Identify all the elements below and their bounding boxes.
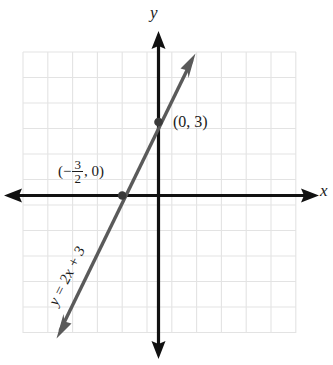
x-intercept-label: (− 3 2 , 0) [58, 158, 104, 186]
point-x-intercept [118, 191, 127, 200]
fraction-denominator: 2 [72, 172, 83, 185]
fraction-numerator: 3 [72, 158, 83, 171]
point-y-intercept [154, 118, 163, 127]
x-intercept-label-suffix: , 0) [84, 164, 104, 179]
graph-figure: y x (0, 3) (− 3 2 , 0) y = 2x + 3 [0, 0, 333, 365]
x-intercept-label-prefix: (− [58, 164, 71, 179]
coordinate-plane-svg [0, 0, 333, 365]
x-axis-label: x [320, 182, 328, 199]
x-intercept-fraction: 3 2 [72, 158, 83, 186]
line-arrow-upper-right [181, 54, 196, 79]
y-intercept-label: (0, 3) [173, 114, 208, 130]
line-arrow-lower-left [57, 314, 72, 339]
y-axis-label: y [150, 4, 158, 21]
x-axis [4, 189, 319, 203]
